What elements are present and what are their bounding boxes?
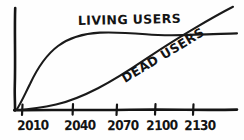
x-tick-2070 — [117, 105, 118, 115]
chart-canvas: 2010 2040 2070 2100 2130 LIVING USERS DE… — [0, 0, 244, 140]
x-tick-label-2040: 2040 — [64, 117, 96, 134]
x-tick-label-2130: 2130 — [184, 117, 216, 133]
living-users-label: LIVING USERS — [78, 11, 181, 28]
x-axis-line — [14, 110, 237, 111]
x-tick-labels: 2010 2040 2070 2100 2130 — [17, 117, 216, 134]
x-tick-label-2100: 2100 — [146, 117, 178, 134]
x-tick-2130 — [193, 104, 194, 114]
x-tick-label-2070: 2070 — [107, 117, 139, 133]
x-tick-label-2010: 2010 — [17, 117, 49, 134]
x-tick-2100 — [155, 104, 156, 114]
xkcd-chart-figure: 2010 2040 2070 2100 2130 LIVING USERS DE… — [0, 0, 244, 140]
